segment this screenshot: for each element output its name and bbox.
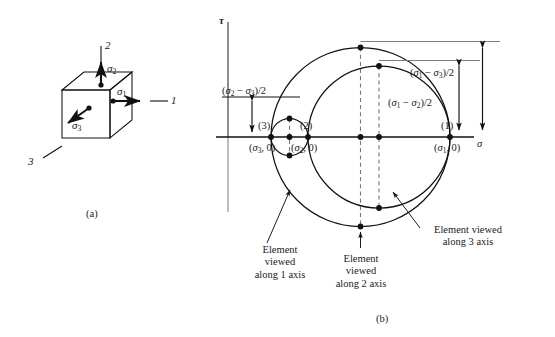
sigma2-arrow (98, 62, 103, 88)
panel-b-caption: (b) (376, 313, 388, 325)
figure-canvas (0, 0, 555, 337)
axis-3-label: 3 (28, 155, 34, 168)
callout-pointer-along1 (267, 190, 290, 243)
sigma1-label: σ1 (117, 85, 126, 99)
callout-along-1-axis: Element viewed along 1 axis (238, 244, 322, 281)
coord-label-sigma3: (σ3, 0) (249, 142, 275, 155)
axis-1-label: 1 (171, 94, 177, 107)
coord-label-sigma2: (σ2, 0) (291, 142, 317, 155)
coord-label-sigma1: (σ1, 0) (434, 142, 460, 155)
sigma3-label: σ3 (72, 119, 81, 133)
callout-along-3-axis: Element viewed along 3 axis (416, 224, 520, 249)
dimension-label-12: (σ1 − σ2)/2 (388, 97, 432, 110)
tau-axis-label: τ (219, 14, 224, 27)
sigma1-arrow (110, 98, 140, 103)
point-label-1: (1) (441, 120, 453, 132)
point-label-2: (2) (300, 120, 312, 132)
sigma-axis-label: σ (477, 138, 482, 150)
panel-a-caption: (a) (86, 208, 98, 220)
callout-along-2-axis: Element viewed along 2 axis (318, 253, 404, 290)
dimension-label-13: (σ1 − σ3)/2 (410, 67, 454, 80)
sigma2-label: σ2 (107, 62, 116, 76)
axis-2-label: 2 (105, 39, 111, 52)
axis-3-line (43, 146, 62, 158)
dimension-label-23: (σ2 − σ3)/2 (222, 85, 266, 98)
point-label-3: (3) (258, 120, 270, 132)
